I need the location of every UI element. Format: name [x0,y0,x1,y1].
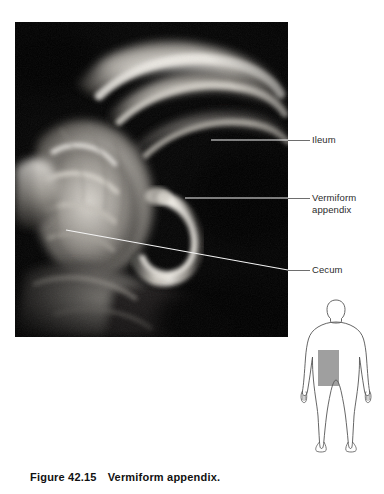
abdomen-highlight-region [318,350,339,386]
leader-line-cecum-outer [288,270,310,271]
body-orientation-figure [296,296,376,454]
label-vermiform-appendix: Vermiform appendix [312,192,356,215]
figure-caption: Figure 42.15Vermiform appendix. [17,459,220,494]
label-cecum: Cecum [312,264,343,276]
figure-container: Ileum Vermiform appendix Cecum [0,0,384,494]
leader-line-appendix-outer [288,198,310,199]
leader-line-ileum-outer [288,140,310,141]
figure-caption-title: Vermiform appendix. [108,471,221,483]
specimen-photograph [15,22,288,337]
figure-caption-number: Figure 42.15 [30,471,97,483]
human-body-silhouette-icon [296,296,376,454]
specimen-photograph-image [15,22,288,337]
label-ileum: Ileum [312,134,336,146]
